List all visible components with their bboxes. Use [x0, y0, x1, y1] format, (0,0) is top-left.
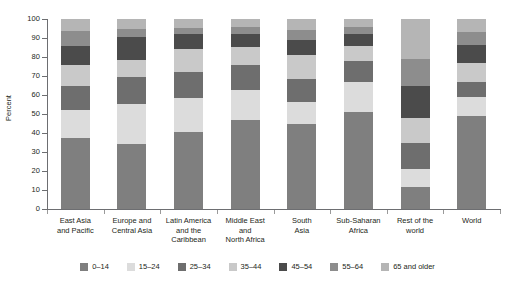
- bar-segment: [401, 86, 430, 118]
- bar-segment: [174, 72, 203, 98]
- bar-segment: [287, 124, 316, 209]
- legend-label: 65 and older: [393, 263, 435, 271]
- x-axis-category-label: SouthAsia: [271, 216, 333, 235]
- bar-segment: [231, 34, 260, 46]
- y-axis-tick-mark: [42, 57, 47, 58]
- bar-segment: [287, 19, 316, 30]
- legend-item[interactable]: 65 and older: [381, 263, 435, 271]
- x-axis-tick-mark: [387, 210, 388, 214]
- legend-item[interactable]: 25–34: [178, 263, 211, 271]
- legend-swatch-icon: [127, 263, 135, 271]
- legend-swatch-icon: [80, 263, 88, 271]
- bar-segment: [174, 34, 203, 49]
- x-axis-category-label: World: [441, 216, 503, 226]
- bar-segment: [117, 37, 146, 60]
- y-axis-tick-mark: [42, 152, 47, 153]
- y-axis-tick-mark: [42, 190, 47, 191]
- y-axis-tick-label: 10: [2, 186, 40, 194]
- bar-segment: [174, 28, 203, 35]
- bar-stack: [344, 19, 373, 209]
- legend-label: 35–44: [241, 263, 262, 271]
- legend-label: 15–24: [139, 263, 160, 271]
- y-axis-tick-label: 20: [2, 167, 40, 175]
- x-axis-category-label-line: East Asia: [44, 216, 106, 226]
- bar-segment: [117, 29, 146, 38]
- legend-item[interactable]: 0–14: [80, 263, 109, 271]
- bar-segment: [61, 19, 90, 31]
- x-axis-category-label: Latin Americaand theCaribbean: [158, 216, 220, 245]
- bar-segment: [457, 45, 486, 63]
- bar-segment: [61, 86, 90, 110]
- x-axis-category-label: East Asiaand Pacific: [44, 216, 106, 235]
- bar-segment: [174, 132, 203, 209]
- x-axis-tick-mark: [500, 210, 501, 214]
- x-axis-tick-mark: [47, 210, 48, 214]
- y-axis-tick-mark: [42, 38, 47, 39]
- bar-segment: [61, 46, 90, 65]
- y-axis-tick-mark: [42, 95, 47, 96]
- bar-stack: [457, 19, 486, 209]
- plot-area: [47, 19, 500, 209]
- y-axis-title: Percent: [5, 78, 13, 138]
- x-axis-category-label-line: and: [214, 226, 276, 236]
- x-axis-tick-mark: [104, 210, 105, 214]
- bar-segment: [174, 49, 203, 72]
- x-axis-category-label-line: South: [271, 216, 333, 226]
- x-axis-category-label: Sub-SaharanAfrica: [327, 216, 389, 235]
- x-axis-tick-mark: [217, 210, 218, 214]
- bar-segment: [457, 97, 486, 116]
- legend-item[interactable]: 35–44: [229, 263, 262, 271]
- bar-segment: [61, 65, 90, 87]
- x-axis-category-label: Europe andCentral Asia: [101, 216, 163, 235]
- x-axis-category-label-line: Middle East: [214, 216, 276, 226]
- legend-label: 55–64: [342, 263, 363, 271]
- bar-segment: [61, 31, 90, 45]
- legend-item[interactable]: 55–64: [330, 263, 363, 271]
- x-axis-category-label: Rest of theworld: [384, 216, 446, 235]
- bar-segment: [231, 65, 260, 91]
- bar-segment: [401, 19, 430, 59]
- bar-segment: [231, 90, 260, 119]
- bar-segment: [457, 19, 486, 32]
- y-axis-tick-label: 90: [2, 34, 40, 42]
- bar-segment: [344, 19, 373, 27]
- legend-label: 45–54: [291, 263, 312, 271]
- legend-item[interactable]: 45–54: [279, 263, 312, 271]
- bar-segment: [231, 27, 260, 35]
- bar-segment: [231, 120, 260, 209]
- legend-label: 25–34: [190, 263, 211, 271]
- bar-segment: [287, 55, 316, 79]
- bar-segment: [344, 61, 373, 82]
- y-axis-tick-mark: [42, 209, 47, 210]
- x-axis-tick-mark: [330, 210, 331, 214]
- bar-segment: [401, 118, 430, 143]
- bar-segment: [401, 169, 430, 187]
- x-axis-tick-mark: [274, 210, 275, 214]
- bar-segment: [117, 60, 146, 77]
- bar-segment: [457, 32, 486, 44]
- bar-segment: [61, 138, 90, 209]
- legend-swatch-icon: [381, 263, 389, 271]
- x-axis-category-label-line: and the: [158, 226, 220, 236]
- bar-segment: [231, 47, 260, 65]
- bar-segment: [457, 116, 486, 209]
- legend-swatch-icon: [330, 263, 338, 271]
- chart-legend: 0–1415–2425–3435–4445–5455–6465 and olde…: [0, 259, 515, 275]
- bar-segment: [401, 143, 430, 170]
- x-axis-tick-mark: [160, 210, 161, 214]
- bar-segment: [231, 19, 260, 27]
- bar-segment: [117, 104, 146, 145]
- bar-segment: [174, 19, 203, 28]
- bar-stack: [174, 19, 203, 209]
- legend-swatch-icon: [229, 263, 237, 271]
- bar-segment: [61, 110, 90, 138]
- stacked-bar-chart: 0102030405060708090100 Percent East Asia…: [0, 0, 515, 289]
- y-axis-tick-mark: [42, 133, 47, 134]
- bar-stack: [401, 19, 430, 209]
- bar-segment: [287, 79, 316, 102]
- legend-item[interactable]: 15–24: [127, 263, 160, 271]
- bar-segment: [117, 77, 146, 104]
- x-axis-tick-mark: [443, 210, 444, 214]
- bar-segment: [344, 46, 373, 61]
- bar-segment: [117, 144, 146, 209]
